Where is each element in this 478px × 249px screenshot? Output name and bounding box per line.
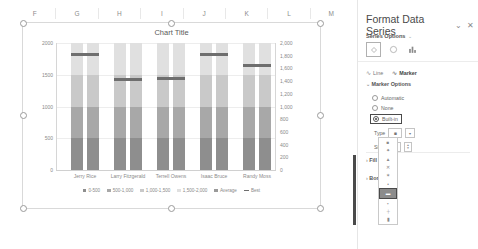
marker-type-option-3[interactable]: ✕: [379, 163, 397, 171]
line-marker-tabs: ∿ Line ∿ Marker: [366, 69, 417, 76]
bar-right[interactable]: [130, 43, 142, 170]
effects-icon[interactable]: [387, 43, 400, 56]
y-tick-right-1200: 1,200: [280, 91, 293, 97]
legend-item-3[interactable]: 1,500-2,000: [177, 188, 207, 193]
legend-label: 1,000-1,500: [146, 188, 171, 193]
legend-swatch-icon: [83, 189, 87, 193]
selection-handle-top-right[interactable]: [317, 20, 324, 27]
bar-right[interactable]: [216, 43, 228, 170]
y-axis-right[interactable]: 0 200 400 600 800 1,000 1,200 1,400 1,60…: [277, 43, 301, 170]
marker-type-option-0[interactable]: ■: [379, 138, 397, 146]
legend-item-5[interactable]: Best: [244, 188, 260, 193]
marker-options-label: Marker Options: [372, 81, 412, 87]
legend-swatch-icon: [140, 189, 144, 193]
vertical-scrollbar-thumb[interactable]: [353, 155, 356, 225]
y-tick-left-0: 0: [50, 167, 53, 173]
legend-item-1[interactable]: 500-1,000: [107, 188, 133, 193]
y-tick-right-800: 800: [280, 116, 288, 122]
selection-handle-top-left[interactable]: [20, 20, 27, 27]
series-options-label: Series Options: [366, 33, 405, 39]
legend-item-4[interactable]: Average: [214, 188, 237, 193]
column-header-l[interactable]: L: [268, 8, 310, 19]
category-axis-labels[interactable]: Jerry Rice Larry Fitzgerald Terrell Owen…: [57, 173, 275, 185]
radio-built-in-label: Built-in: [382, 116, 398, 122]
legend-swatch-icon: [214, 189, 218, 193]
bar-right[interactable]: [259, 43, 271, 170]
y-tick-left-2000: 2000: [42, 40, 53, 46]
column-header-g[interactable]: G: [56, 8, 98, 19]
bar-group-jerry-rice[interactable]: [71, 43, 99, 170]
radio-automatic[interactable]: Automatic: [372, 95, 404, 101]
plot-area[interactable]: [57, 43, 275, 170]
legend-label: 1,500-2,000: [183, 188, 208, 193]
marker-type-label: Type: [374, 130, 385, 136]
bar-group-randy-moss[interactable]: [243, 43, 271, 170]
marker-type-option-5[interactable]: •: [379, 180, 397, 188]
y-tick-right-1600: 1,600: [280, 65, 293, 71]
bar-left[interactable]: [114, 43, 126, 170]
column-header-k[interactable]: K: [226, 8, 268, 19]
column-header-j[interactable]: J: [184, 8, 226, 19]
fill-bucket-icon[interactable]: [366, 42, 381, 57]
chevron-right-icon: ›: [366, 175, 368, 181]
marker-type-option-8[interactable]: ＋: [379, 207, 397, 215]
chart-object[interactable]: Chart Title 0 500 1000 1500 2000 0 200 4…: [22, 22, 321, 209]
marker-best[interactable]: [157, 77, 185, 80]
y-tick-right-2000: 2,000: [280, 40, 293, 46]
tab-marker[interactable]: ∿ Marker: [392, 69, 417, 76]
close-icon[interactable]: ✕: [467, 21, 474, 30]
chart-legend[interactable]: 0-500 500-1,000 1,000-1,500 1,500-2,000 …: [23, 188, 320, 193]
y-tick-right-400: 400: [280, 142, 288, 148]
bar-right[interactable]: [173, 43, 185, 170]
column-header-i[interactable]: I: [141, 8, 183, 19]
selection-handle-middle-right[interactable]: [317, 112, 324, 119]
radio-none-label: None: [381, 105, 393, 111]
marker-type-option-7[interactable]: ⬩: [379, 199, 397, 207]
selection-handle-bottom-right[interactable]: [317, 205, 324, 212]
bar-group-isaac-bruce[interactable]: [200, 43, 228, 170]
marker-type-dropdown-arrow[interactable]: ▾: [405, 128, 415, 138]
marker-best[interactable]: [71, 53, 99, 56]
column-header-f[interactable]: F: [14, 8, 56, 19]
marker-best[interactable]: [114, 78, 142, 81]
marker-type-option-4[interactable]: ✶: [379, 172, 397, 180]
series-options-dropdown[interactable]: Series Options ⌄: [366, 33, 412, 39]
marker-type-option-9[interactable]: ▮: [379, 216, 397, 224]
section-fill[interactable]: › Fill: [366, 157, 377, 163]
chevron-down-icon[interactable]: ⌄: [455, 21, 462, 30]
bar-left[interactable]: [243, 43, 255, 170]
series-chart-icon[interactable]: [406, 43, 419, 56]
bar-group-larry-fitzgerald[interactable]: [114, 43, 142, 170]
selection-handle-middle-left[interactable]: [20, 112, 27, 119]
column-header-h[interactable]: H: [99, 8, 141, 19]
legend-item-2[interactable]: 1,000-1,500: [140, 188, 170, 193]
legend-item-0[interactable]: 0-500: [83, 188, 100, 193]
radio-built-in[interactable]: Built-in: [370, 114, 402, 124]
selection-handle-top-middle[interactable]: [168, 20, 175, 27]
marker-size-stepper[interactable]: ▲▼: [404, 142, 412, 152]
column-header-m[interactable]: M: [311, 8, 352, 19]
marker-options-heading[interactable]: ⌄ Marker Options: [366, 81, 411, 87]
wave-icon: ∿: [392, 69, 397, 76]
marker-best[interactable]: [200, 53, 228, 56]
radio-none[interactable]: None: [372, 105, 393, 111]
chart-title[interactable]: Chart Title: [23, 28, 320, 37]
bar-right[interactable]: [87, 43, 99, 170]
bar-left[interactable]: [157, 43, 169, 170]
marker-type-option-1[interactable]: ✦: [379, 146, 397, 154]
tab-line[interactable]: ∿ Line: [366, 69, 383, 76]
tab-marker-label: Marker: [399, 70, 417, 76]
legend-label: 500-1,000: [113, 188, 134, 193]
marker-type-dropdown-list[interactable]: ■ ✦ ▲ ✕ ✶ • ▬ ⬩ ＋ ▮: [378, 137, 398, 225]
selection-handle-bottom-left[interactable]: [20, 205, 27, 212]
bar-left[interactable]: [200, 43, 212, 170]
bar-group-terrell-owens[interactable]: [157, 43, 185, 170]
bar-left[interactable]: [71, 43, 83, 170]
marker-best[interactable]: [243, 64, 271, 67]
marker-type-option-2[interactable]: ▲: [379, 155, 397, 163]
y-axis-left[interactable]: 0 500 1000 1500 2000: [35, 43, 55, 170]
selection-handle-bottom-middle[interactable]: [168, 205, 175, 212]
y-tick-right-200: 200: [280, 154, 288, 160]
marker-type-option-6-selected[interactable]: ▬: [379, 188, 397, 198]
